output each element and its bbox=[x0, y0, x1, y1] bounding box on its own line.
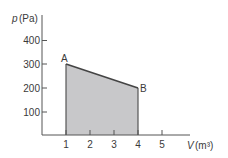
y-tick-label-300: 300 bbox=[23, 59, 40, 70]
y-tick-label-200: 200 bbox=[23, 83, 40, 94]
y-tick-label-100: 100 bbox=[23, 107, 40, 118]
x-axis-unit: (m³) bbox=[195, 140, 213, 151]
x-tick-label-4: 4 bbox=[135, 139, 141, 150]
work-area bbox=[66, 64, 138, 135]
y-ticks bbox=[42, 41, 47, 113]
y-tick-label-400: 400 bbox=[23, 35, 40, 46]
x-tick-label-5: 5 bbox=[159, 139, 165, 150]
y-axis-unit: (Pa) bbox=[19, 13, 38, 24]
y-axis-var: p bbox=[11, 13, 18, 24]
x-axis-var: V bbox=[187, 140, 195, 151]
point-label-a: A bbox=[61, 53, 68, 64]
point-label-b: B bbox=[140, 83, 147, 94]
pv-diagram: 400 300 200 100 1 2 3 4 5 p (Pa) V (m³) … bbox=[0, 0, 228, 158]
x-tick-label-1: 1 bbox=[63, 139, 69, 150]
x-tick-label-3: 3 bbox=[111, 139, 117, 150]
x-tick-label-2: 2 bbox=[87, 139, 93, 150]
